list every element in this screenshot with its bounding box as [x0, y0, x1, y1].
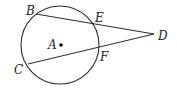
- label-d: D: [157, 29, 168, 43]
- secant-cd: [28, 34, 154, 64]
- label-a: A: [47, 38, 57, 52]
- label-c: C: [14, 63, 23, 77]
- label-f: F: [99, 50, 109, 64]
- label-e: E: [94, 11, 104, 25]
- secant-diagram: B E D A F C: [0, 0, 177, 91]
- center-point-a: [59, 43, 63, 47]
- label-b: B: [25, 4, 35, 18]
